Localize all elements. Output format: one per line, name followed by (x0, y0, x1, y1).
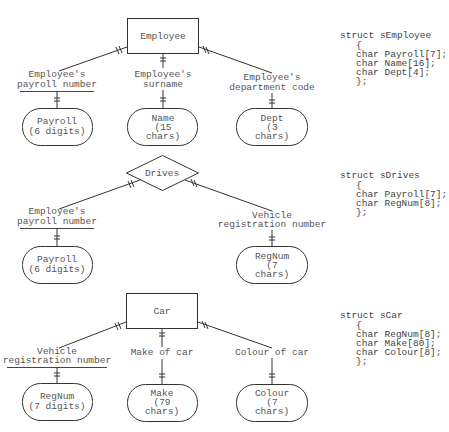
field-line: chars) (255, 269, 289, 280)
struct-sdrives: struct sDrives { char Payroll[7]; char R… (340, 170, 447, 218)
field-line: chars) (255, 131, 289, 142)
field-line: chars) (146, 131, 180, 142)
relationship-drives-label: Drives (145, 168, 179, 179)
connector-employee-payroll (59, 47, 127, 71)
struct-scar: struct sCar { char RegNum[8]; char Make[… (340, 310, 442, 367)
connector-drives-payroll (59, 180, 140, 209)
connector-drives-regnum (185, 180, 272, 211)
field-line: chars) (145, 406, 179, 417)
attr-label-line: payroll number (17, 79, 97, 90)
entity-car-label: Car (153, 306, 170, 317)
field-line: chars) (255, 406, 289, 417)
struct-close: }; (356, 207, 367, 218)
attr-label-line: department code (229, 82, 315, 93)
drives-section: Drives Employee's payroll number Vehicle… (17, 156, 447, 284)
struct-header: struct sEmployee (340, 30, 432, 41)
struct-header: struct sCar (340, 310, 403, 321)
attr-label-line: Colour of car (235, 347, 309, 358)
struct-semployee: struct sEmployee { char Payroll[7]; char… (340, 30, 447, 87)
connector-employee-dept (199, 47, 272, 73)
struct-header: struct sDrives (340, 170, 420, 181)
attr-label-line: surname (143, 79, 183, 90)
struct-member: char Colour[8]; (356, 347, 442, 358)
attr-label-line: registration number (218, 219, 326, 230)
employee-section: Employee Employee's payroll number Emplo… (17, 19, 447, 146)
car-section: Car Vehicle registration number Make of … (3, 294, 442, 422)
struct-close: }; (356, 356, 367, 367)
connector-car-colour (198, 322, 272, 348)
er-diagram: Employee Employee's payroll number Emplo… (0, 0, 449, 432)
attr-label-line: payroll number (17, 216, 97, 227)
field-line: (7 digits) (28, 401, 85, 412)
attr-label-line: registration number (3, 355, 111, 366)
struct-member: char RegNum[8]; (356, 198, 442, 209)
entity-employee-label: Employee (140, 31, 186, 42)
field-line: (6 digits) (28, 126, 85, 137)
field-line: (6 digits) (28, 264, 85, 275)
attr-label-line: Make of car (131, 347, 194, 358)
struct-close: }; (356, 76, 367, 87)
